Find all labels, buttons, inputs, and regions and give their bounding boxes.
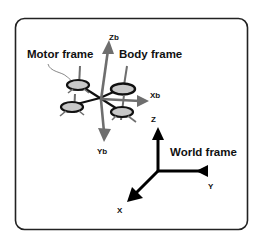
world-z-label: Z bbox=[151, 115, 156, 124]
xb-label: Xb bbox=[150, 91, 160, 100]
body-frame-label: Body frame bbox=[119, 48, 182, 60]
yb-label: Yb bbox=[97, 147, 107, 156]
motor-frame-label: Motor frame bbox=[27, 48, 93, 60]
coordinate-frames-diagram: Motor frame Body frame World frame Zb Xb… bbox=[0, 0, 259, 240]
world-x-label: X bbox=[117, 206, 123, 215]
zb-label: Zb bbox=[109, 33, 119, 42]
world-frame-label: World frame bbox=[170, 146, 237, 158]
world-y-label: Y bbox=[208, 182, 214, 191]
